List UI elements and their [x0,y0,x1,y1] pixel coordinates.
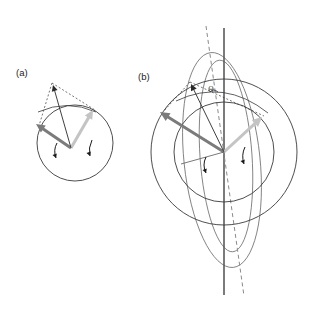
panel-label-a: (a) [16,67,28,78]
panel-label-b: (b) [138,71,150,82]
vector-precession-diagram: (a) Θ(b) [0,0,320,310]
figure-background [0,0,320,310]
figure-root: (a) Θ(b) [0,0,320,310]
theta-angle-label: Θ [208,85,214,94]
